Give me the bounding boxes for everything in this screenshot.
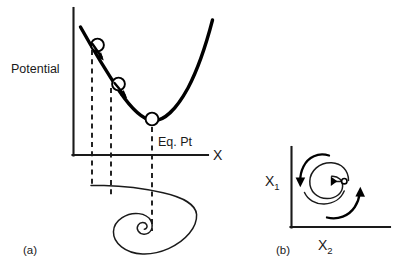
panel-a-x-axis-label: X	[213, 147, 223, 163]
panel-a-caption: (a)	[23, 244, 37, 256]
ball-equilibrium	[146, 113, 159, 126]
figure-background	[0, 0, 399, 271]
figure-root: Potential X Eq. Pt (a)	[0, 0, 399, 271]
panel-a-equilibrium-label: Eq. Pt	[158, 135, 193, 149]
panel-b-y-axis-subscript: 1	[274, 181, 279, 192]
panel-a-y-axis-label: Potential	[11, 62, 60, 76]
panel-b-x-axis-subscript: 2	[327, 245, 332, 256]
panel-b-caption: (b)	[276, 244, 290, 256]
figure-canvas: Potential X Eq. Pt (a)	[0, 0, 399, 271]
panel-b-fixed-point	[342, 179, 347, 184]
